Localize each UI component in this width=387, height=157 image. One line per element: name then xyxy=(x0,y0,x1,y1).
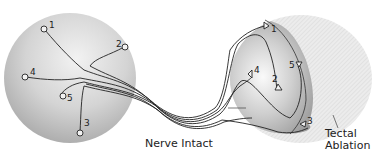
tectum-label-2: 2 xyxy=(272,74,278,84)
retina-label-5: 5 xyxy=(67,93,73,103)
tectum-label-3: 3 xyxy=(307,116,313,126)
retina-site-3-icon xyxy=(77,130,83,136)
tectum-label-4: 4 xyxy=(254,65,260,75)
retina-site-2-icon xyxy=(122,44,128,50)
retina-site-4-icon xyxy=(22,74,28,80)
retina-site-1-icon xyxy=(41,26,47,32)
tectum-label-1: 1 xyxy=(271,24,277,34)
retina-label-4: 4 xyxy=(30,67,36,77)
retina-label-3: 3 xyxy=(84,118,90,128)
ablation-label: Ablation xyxy=(325,140,370,152)
retina-label-2: 2 xyxy=(116,39,122,49)
retina-label-1: 1 xyxy=(49,20,55,30)
tectum-label-5: 5 xyxy=(289,60,295,70)
nerve-intact-label: Nerve Intact xyxy=(145,138,213,150)
tectum xyxy=(222,15,372,143)
retina-site-5-icon xyxy=(60,93,66,99)
